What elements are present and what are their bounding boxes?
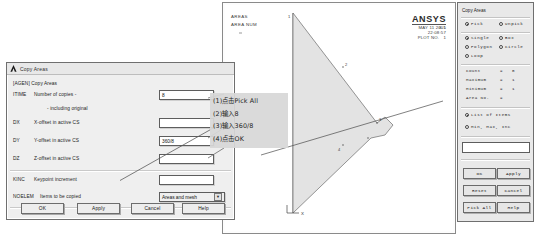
- radio-polygon[interactable]: Polygon: [465, 45, 492, 49]
- annotation-line-3: (3)输入360/8: [213, 120, 285, 133]
- field-tag-noelem: NOELEM: [13, 194, 34, 199]
- pick-reset-button[interactable]: Reset: [463, 185, 496, 196]
- cancel-button[interactable]: Cancel: [131, 203, 174, 214]
- annotation-line-2: (2)输入8: [213, 108, 285, 121]
- agen-command-label: [AGEN] Copy Areas: [13, 81, 57, 86]
- radio-pick[interactable]: Pick: [465, 22, 483, 26]
- field-desc-including-original: - including original: [47, 106, 88, 111]
- copy-areas-dialog-title: Copy Areas: [20, 66, 48, 72]
- svg-text:1: 1: [288, 14, 291, 19]
- field-desc-kinc: Keypoint increment: [34, 177, 77, 182]
- pick-areas-dialog[interactable]: Copy Areas Pick Unpick Single Box Polygo…: [457, 2, 534, 222]
- pick-divider-4: [461, 136, 530, 138]
- radio-loop-label: Loop: [471, 54, 483, 58]
- counter-label-count: Count: [466, 69, 481, 73]
- pick-apply-button[interactable]: Apply: [497, 168, 530, 179]
- ansys-brand-text: ANSYS: [412, 15, 446, 25]
- dialog-divider-1: [10, 170, 231, 172]
- radio-single-label: Single: [471, 36, 489, 40]
- apply-button[interactable]: Apply: [77, 203, 120, 214]
- kinc-input[interactable]: [159, 175, 214, 185]
- radio-dot-icon: [465, 54, 469, 58]
- svg-text:2: 2: [345, 62, 348, 67]
- annotation-line-1: (1)点击Pick All: [213, 95, 285, 108]
- radio-list-of-items-label: List of Items: [471, 113, 511, 117]
- radio-polygon-label: Polygon: [471, 45, 492, 49]
- radio-loop[interactable]: Loop: [465, 54, 483, 58]
- radio-circle[interactable]: Circle: [499, 45, 523, 49]
- pick-divider-1: [461, 32, 530, 34]
- radio-unpick[interactable]: Unpick: [499, 22, 523, 26]
- dz-input[interactable]: [159, 154, 214, 164]
- radio-dot-icon: [465, 113, 469, 117]
- noelem-select-value: Areas and mesh: [162, 193, 197, 202]
- step-annotation-callout: (1)点击Pick All (2)输入8 (3)输入360/8 (4)点击OK: [210, 93, 288, 148]
- counter-value-count: 0: [512, 69, 515, 73]
- radio-pick-label: Pick: [471, 22, 483, 26]
- field-desc-itime: Number of copies -: [34, 92, 76, 97]
- radio-dot-icon: [465, 45, 469, 49]
- pick-cancel-button[interactable]: Cancel: [497, 185, 530, 196]
- field-tag-dz: DZ: [13, 156, 20, 161]
- pick-divider-5: [461, 159, 530, 161]
- radio-dot-icon: [465, 36, 469, 40]
- pick-dialog-title: Copy Areas: [460, 5, 531, 15]
- field-tag-kinc: KINC: [13, 177, 25, 182]
- pick-ok-button[interactable]: OK: [463, 168, 496, 179]
- counter-eq-minimum: =: [500, 87, 503, 91]
- field-desc-dy: Y-offset in active CS: [34, 138, 79, 143]
- radio-min-max-inc-label: Min, Max, Inc: [471, 125, 511, 129]
- radio-dot-icon: [499, 45, 503, 49]
- noelem-select[interactable]: Areas and mesh ▼: [159, 192, 225, 202]
- graphics-label-area-num: AREA NUM: [231, 22, 257, 27]
- radio-box[interactable]: Box: [499, 36, 514, 40]
- field-desc-dx: X-offset in active CS: [34, 120, 79, 125]
- field-tag-dy: DY: [13, 138, 20, 143]
- dx-input[interactable]: [159, 118, 214, 128]
- plot-metadata: MAY 11 2005 22:08:57 PLOT NO. 1: [418, 25, 446, 41]
- field-tag-itime: ITIME: [13, 92, 26, 97]
- radio-min-max-inc[interactable]: Min, Max, Inc: [465, 125, 511, 129]
- counter-eq-count: =: [500, 69, 503, 73]
- counter-eq-area-no: =: [500, 96, 503, 100]
- radio-unpick-label: Unpick: [505, 22, 523, 26]
- radio-dot-icon: [465, 125, 469, 129]
- counter-label-minimum: Minimum: [466, 87, 486, 91]
- copy-areas-dialog-body: [AGEN] Copy Areas ITIME Number of copies…: [7, 75, 234, 219]
- pick-help-button[interactable]: Help: [497, 202, 530, 213]
- dy-input[interactable]: 360/8: [159, 136, 214, 146]
- chevron-down-icon[interactable]: ▼: [214, 193, 222, 201]
- field-desc-dz: Z-offset in active CS: [34, 156, 79, 161]
- pick-divider-2: [461, 64, 530, 66]
- pick-all-button[interactable]: Pick All: [463, 202, 496, 213]
- help-button[interactable]: Help: [182, 203, 225, 214]
- itime-input[interactable]: 8: [159, 90, 214, 100]
- counter-label-maximum: Maximum: [466, 78, 486, 82]
- counter-value-minimum: 1: [512, 87, 515, 91]
- counter-value-maximum: 1: [512, 78, 515, 82]
- radio-single[interactable]: Single: [465, 36, 489, 40]
- radio-dot-icon: [465, 22, 469, 26]
- radio-box-label: Box: [505, 36, 514, 40]
- counter-label-area-no: Area No.: [466, 96, 489, 100]
- screenshot-root: 2 3 4 1 X AREAS AREA NUM ANSYS 8.1 MAY 1…: [0, 0, 536, 236]
- pick-divider-3: [461, 107, 530, 109]
- copy-dialog-button-row: OK Apply Cancel Help: [7, 203, 234, 215]
- copy-areas-dialog-titlebar[interactable]: Copy Areas: [7, 63, 234, 75]
- graphics-label-areas: AREAS: [231, 14, 248, 19]
- copy-areas-dialog[interactable]: Copy Areas [AGEN] Copy Areas ITIME Numbe…: [6, 62, 235, 220]
- ok-button[interactable]: OK: [21, 203, 64, 214]
- radio-circle-label: Circle: [505, 45, 523, 49]
- counter-eq-maximum: =: [500, 78, 503, 82]
- pick-entry-input[interactable]: [462, 142, 530, 153]
- radio-dot-icon: [499, 22, 503, 26]
- field-tag-dx: DX: [13, 120, 20, 125]
- field-desc-noelem: Items to be copied: [40, 194, 81, 199]
- radio-list-of-items[interactable]: List of Items: [465, 113, 511, 117]
- annotation-line-4: (4)点击OK: [213, 133, 285, 146]
- axis-x-label: X: [301, 211, 304, 216]
- pick-divider-0: [461, 17, 530, 19]
- radio-dot-icon: [499, 36, 503, 40]
- ansys-a-icon: [10, 65, 17, 72]
